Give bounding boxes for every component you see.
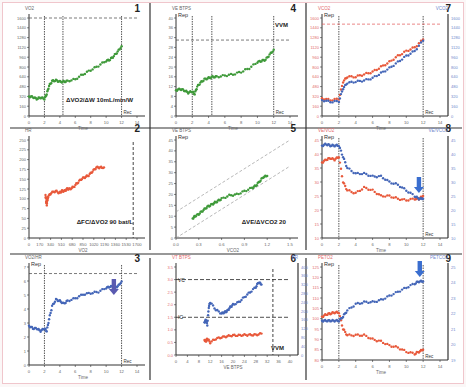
y-tick-label: 12 (169, 84, 174, 89)
x-tick-label: 0 (28, 120, 31, 125)
y-right-tick-label: 25 (451, 194, 456, 199)
y-tick-label: 35 (169, 159, 174, 164)
y-tick-label: 6 (24, 279, 27, 284)
y-tick-label: 5 (171, 225, 174, 230)
y-tick-label: 16 (169, 74, 174, 79)
x-tick-label: 40 (288, 359, 293, 364)
x-tick-label: 6 (74, 120, 77, 125)
y-tick-label: 100 (19, 196, 26, 201)
y-right-tick-label: 21 (451, 327, 456, 332)
x-tick-label: 12 (421, 364, 426, 369)
y-right-tick-label: 1280 (451, 35, 461, 40)
y-tick-label: 960 (312, 55, 319, 60)
y-right-tick-label: 24 (451, 280, 456, 285)
x-tick-label: 32 (265, 359, 270, 364)
y-tick-label: 7 (24, 265, 27, 270)
y-tick-label: 4 (171, 104, 174, 109)
y-axis-label: VO2 (25, 6, 35, 11)
rep-label: Rep (324, 261, 334, 267)
x-axis-label: VCO2 (227, 248, 240, 253)
y-tick-label: 1600 (310, 16, 320, 21)
x-tick-label: 0.6 (219, 242, 225, 247)
x-tick-label: 8 (90, 120, 93, 125)
y-right-tick-label: 200 (301, 309, 308, 314)
series-ve-vo2 (321, 156, 425, 202)
y-right-tick-label: 45 (451, 138, 456, 143)
y-right-tick-label: 160 (451, 104, 458, 109)
y-tick-label: 10 (169, 214, 174, 219)
x-tick-label: 0 (28, 369, 31, 374)
y-right-tick-label: 40 (301, 344, 306, 349)
y-axis-label: VO2/HR (25, 255, 43, 260)
x-tick-label: 4 (355, 120, 358, 125)
y-tick-label: 24 (169, 55, 174, 60)
y-tick-label: 25 (22, 226, 27, 231)
x-tick-label: 8 (90, 369, 93, 374)
y-right-tick-label: 25 (451, 265, 456, 270)
x-tick-label: 14 (438, 120, 443, 125)
y-tick-label: 45 (169, 138, 174, 143)
x-tick-label: 4 (186, 359, 189, 364)
x-tick-label: 12 (208, 359, 213, 364)
series-vt (203, 281, 262, 326)
y-tick-label: 640 (312, 74, 319, 79)
y-tick-label: 125 (312, 265, 319, 270)
x-tick-label: 0.0 (173, 242, 179, 247)
x-tick-label: 0 (321, 364, 324, 369)
x-tick-label: 2 (338, 364, 341, 369)
y-axis-label: VE/VO2 (318, 128, 335, 133)
x-tick-label: 10 (104, 120, 109, 125)
x-tick-label: 170 (36, 242, 44, 247)
series-ve (192, 175, 269, 220)
x-tick-label: 850 (80, 242, 88, 247)
y-tick-label: 0 (317, 114, 320, 119)
x-tick-label: 1530 (122, 242, 132, 247)
y-tick-label: 25 (315, 194, 320, 199)
y-tick-label: 0 (171, 236, 174, 241)
x-tick-label: 8 (388, 242, 391, 247)
y-axis-label: PETO2 (318, 255, 333, 260)
y-tick-label: 2.0 (167, 302, 173, 307)
x-tick-label: 1360 (111, 242, 121, 247)
x-axis-label: Time (78, 375, 88, 380)
y-tick-label: 95 (315, 327, 320, 332)
y-tick-label: 40 (169, 148, 174, 153)
reference-band-upper (176, 140, 290, 212)
y-axis-right-label: VCO2 (436, 6, 449, 11)
panel-4: 402468101214Time0481216202428323640VE BT… (169, 3, 298, 131)
y-axis-label: HR (25, 128, 32, 133)
y-tick-label: 28 (169, 45, 174, 50)
y-tick-label: 25 (169, 181, 174, 186)
series-o2-pulse (28, 280, 123, 333)
y-tick-label: 40 (315, 152, 320, 157)
panel-3: 302468101214Time01234567VO2/HRRepRec (24, 253, 145, 380)
x-tick-label: 4 (355, 364, 358, 369)
x-tick-label: 1.2 (264, 242, 270, 247)
x-tick-label: 6 (371, 242, 374, 247)
annotation-text: ΔVE/ΔVCO2 20 (242, 218, 287, 225)
y-right-tick-label: 23 (451, 296, 456, 301)
y-right-tick-label: 15 (451, 222, 456, 227)
y-tick-label: 200 (19, 157, 26, 162)
y-tick-label: 960 (19, 55, 26, 60)
x-tick-label: 8 (388, 120, 391, 125)
x-tick-label: 10 (255, 120, 260, 125)
y-tick-label: 480 (312, 84, 319, 89)
series-vo2 (321, 38, 425, 102)
y-right-tick-label: 160 (301, 317, 308, 322)
y-right-tick-label: 30 (451, 180, 456, 185)
volume-reference-label: VC (178, 277, 185, 283)
y-tick-label: 85 (315, 347, 320, 352)
x-tick-label: 24 (242, 359, 247, 364)
x-tick-label: 10 (404, 242, 409, 247)
series-vo2 (28, 45, 123, 101)
panel-number: 5 (290, 123, 296, 134)
x-tick-label: 0 (321, 120, 324, 125)
y-tick-label: 30 (315, 180, 320, 185)
y-tick-label: 125 (19, 187, 26, 192)
y-tick-label: 3.0 (167, 277, 173, 282)
x-tick-label: 4 (207, 120, 210, 125)
y-tick-label: 15 (169, 203, 174, 208)
y-tick-label: 80 (315, 358, 320, 363)
panel-2: 2017034051068085010201190136015301700VO2… (19, 123, 145, 253)
